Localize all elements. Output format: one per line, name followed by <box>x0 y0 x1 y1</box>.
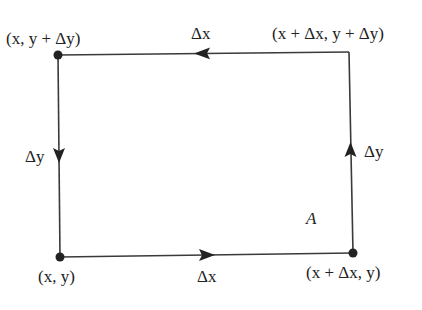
vertex-label-bottom-right: (x + Δx, y) <box>306 264 380 281</box>
area-label: A <box>306 210 316 227</box>
edge-label-bottom: Δx <box>197 268 216 285</box>
vertex-bottom-left-dot <box>56 253 65 262</box>
edge-label-top: Δx <box>191 25 210 42</box>
edge-label-left: Δy <box>25 148 44 165</box>
vertex-bottom-right-dot <box>349 249 358 258</box>
vertex-label-bottom-left: (x, y) <box>38 268 75 285</box>
vertex-label-top-right: (x + Δx, y + Δy) <box>272 25 384 42</box>
edge-label-right: Δy <box>364 143 383 160</box>
vertex-label-top-left: (x, y + Δy) <box>6 30 80 47</box>
circulation-diagram: (x, y + Δy) (x + Δx, y + Δy) (x, y) (x +… <box>0 0 422 310</box>
vertex-top-left-dot <box>54 51 63 60</box>
